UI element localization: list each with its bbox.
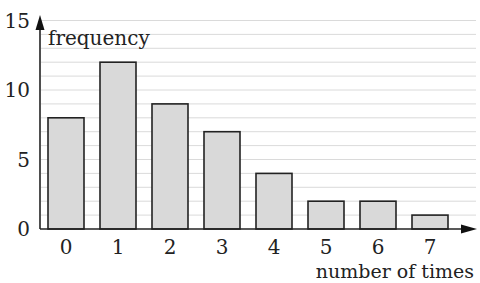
bar-2	[152, 104, 188, 229]
y-tick-label: 5	[17, 148, 30, 172]
x-axis-arrow-icon	[461, 225, 477, 234]
y-tick-label: 0	[17, 217, 30, 241]
bar-0	[48, 118, 84, 229]
bar-chart: 051015 01234567 frequency number of time…	[0, 0, 480, 283]
x-tick-label: 3	[216, 235, 229, 259]
y-tick-label: 10	[5, 78, 30, 102]
x-tick-label: 6	[372, 235, 385, 259]
y-tick-labels: 051015	[5, 9, 30, 242]
bar-4	[256, 173, 292, 229]
x-axis-label: number of times	[316, 260, 474, 282]
bar-3	[204, 132, 240, 229]
y-tick-label: 15	[5, 9, 30, 33]
x-tick-label: 4	[268, 235, 281, 259]
bar-7	[412, 215, 448, 229]
y-axis-arrow-icon	[36, 15, 45, 30]
x-tick-label: 7	[424, 235, 437, 259]
bar-6	[360, 201, 396, 229]
bar-1	[100, 62, 136, 229]
bar-5	[308, 201, 344, 229]
x-tick-labels: 01234567	[60, 235, 437, 259]
x-tick-label: 1	[112, 235, 125, 259]
y-axis-label: frequency	[48, 26, 150, 50]
x-tick-label: 2	[164, 235, 177, 259]
x-tick-label: 0	[60, 235, 73, 259]
x-tick-label: 5	[320, 235, 333, 259]
